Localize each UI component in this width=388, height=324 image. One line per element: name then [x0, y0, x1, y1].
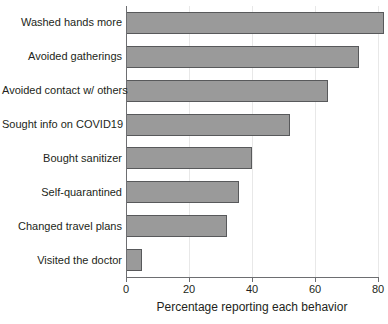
- category-label: Visited the doctor: [2, 254, 122, 267]
- category-label: Sought info on COVID19: [2, 118, 122, 131]
- bar-chart: 020406080 Washed hands moreAvoided gathe…: [0, 0, 388, 324]
- bar: [126, 249, 142, 271]
- category-axis-line: [126, 6, 127, 277]
- bar: [126, 46, 359, 68]
- category-label: Self-quarantined: [2, 186, 122, 199]
- bar-row: [126, 181, 378, 203]
- value-axis-tick-label: 80: [372, 283, 384, 296]
- bar-row: [126, 249, 378, 271]
- value-axis-tick-label: 40: [246, 283, 258, 296]
- category-label: Washed hands more: [2, 16, 122, 29]
- value-axis-tick: [315, 277, 316, 282]
- value-axis-tick: [252, 277, 253, 282]
- gridline: [378, 6, 379, 277]
- category-axis-labels: Washed hands moreAvoided gatheringsAvoid…: [0, 6, 122, 277]
- bar-row: [126, 215, 378, 237]
- bar-row: [126, 46, 378, 68]
- x-axis-title: Percentage reporting each behavior: [126, 300, 378, 315]
- category-label: Bought sanitizer: [2, 152, 122, 165]
- value-axis-tick: [378, 277, 379, 282]
- bar: [126, 12, 384, 34]
- bar-row: [126, 114, 378, 136]
- bar: [126, 114, 290, 136]
- category-label: Avoided contact w/ others: [2, 84, 122, 97]
- category-label: Changed travel plans: [2, 220, 122, 233]
- bar-row: [126, 147, 378, 169]
- bar: [126, 147, 252, 169]
- bar: [126, 181, 239, 203]
- bar-row: [126, 80, 378, 102]
- value-axis-tick: [126, 277, 127, 282]
- bar: [126, 80, 328, 102]
- plot-area: [126, 6, 378, 277]
- value-axis-tick: [189, 277, 190, 282]
- bar-row: [126, 12, 378, 34]
- category-label: Avoided gatherings: [2, 50, 122, 63]
- value-axis-tick-label: 20: [183, 283, 195, 296]
- bar: [126, 215, 227, 237]
- value-axis-tick-label: 60: [309, 283, 321, 296]
- value-axis-tick-label: 0: [123, 283, 129, 296]
